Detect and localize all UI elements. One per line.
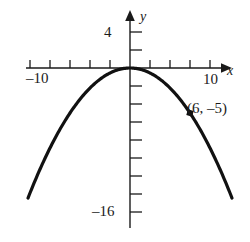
x-axis-ticks [30,60,210,68]
parabola-figure: 4 –16 –10 10 y x (6, –5) [0,0,250,242]
x-axis-tick-label-10: 10 [203,72,218,87]
y-axis-tick-label-4: 4 [104,25,112,40]
point-annotation-label: (6, –5) [187,101,227,116]
y-axis-label: y [140,10,146,24]
y-axis-tick-label-minus-16: –16 [92,204,115,219]
y-axis-arrowhead [125,10,135,21]
x-axis-label: x [227,64,233,78]
y-axis-ticks [130,32,142,212]
x-axis-tick-label-minus-10: –10 [26,71,49,86]
plot-canvas [0,0,250,242]
